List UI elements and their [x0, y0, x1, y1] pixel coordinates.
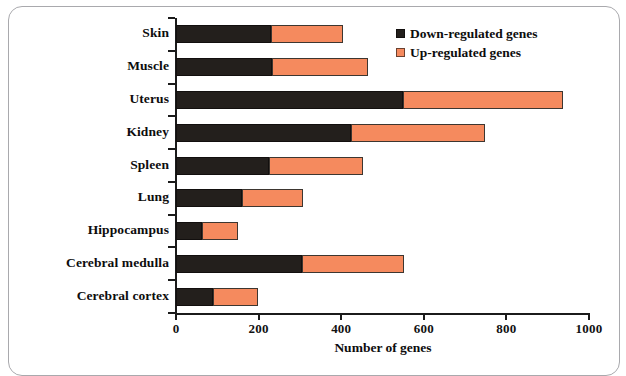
bar-segment-up-regulated — [269, 157, 363, 175]
x-axis-line — [175, 313, 589, 315]
x-axis-tick-label: 0 — [146, 321, 206, 337]
bar-segment-up-regulated — [403, 91, 563, 109]
bar-segment-down-regulated — [176, 222, 202, 240]
bar-segment-down-regulated — [176, 124, 351, 142]
bar-kidney — [176, 124, 589, 142]
y-axis-tick — [168, 83, 175, 85]
y-axis-label-cerebral-medulla: Cerebral medulla — [0, 255, 169, 271]
y-axis-label-uterus: Uterus — [0, 91, 169, 107]
x-axis-tick — [505, 313, 507, 320]
legend-item-up-regulated: Up-regulated genes — [396, 43, 538, 62]
y-axis-tick — [168, 50, 175, 52]
bar-cerebral-medulla — [176, 255, 589, 273]
y-axis-tick — [168, 312, 175, 314]
bar-segment-up-regulated — [242, 189, 303, 207]
legend-label-down-regulated: Down-regulated genes — [410, 26, 538, 42]
y-axis-label-kidney: Kidney — [0, 124, 169, 140]
bar-segment-up-regulated — [213, 288, 258, 306]
bar-segment-down-regulated — [176, 25, 271, 43]
y-axis-label-hippocampus: Hippocampus — [0, 222, 169, 238]
x-axis-tick-label: 800 — [476, 321, 536, 337]
y-axis-tick — [168, 279, 175, 281]
bar-segment-up-regulated — [272, 58, 368, 76]
black-square-icon — [396, 29, 405, 38]
bar-segment-down-regulated — [176, 157, 269, 175]
x-axis-tick-label: 200 — [229, 321, 289, 337]
x-axis-tick-label: 1000 — [559, 321, 619, 337]
y-axis-label-cerebral-cortex: Cerebral cortex — [0, 288, 169, 304]
bar-segment-down-regulated — [176, 255, 302, 273]
orange-square-icon — [396, 48, 405, 57]
bar-segment-down-regulated — [176, 58, 272, 76]
bar-segment-up-regulated — [302, 255, 404, 273]
x-axis-tick-label: 400 — [311, 321, 371, 337]
bar-segment-down-regulated — [176, 189, 242, 207]
bar-spleen — [176, 157, 589, 175]
y-axis-tick — [168, 115, 175, 117]
x-axis-title: Number of genes — [176, 340, 590, 356]
y-axis-tick — [168, 246, 175, 248]
y-axis-tick — [168, 181, 175, 183]
bar-segment-down-regulated — [176, 91, 403, 109]
x-axis-tick-label: 600 — [394, 321, 454, 337]
y-axis-tick — [168, 148, 175, 150]
bar-cerebral-cortex — [176, 288, 589, 306]
x-axis-tick — [588, 313, 590, 320]
bar-hippocampus — [176, 222, 589, 240]
bar-segment-up-regulated — [351, 124, 485, 142]
y-axis-tick — [168, 17, 175, 19]
x-axis-tick — [340, 313, 342, 320]
x-axis-tick — [423, 313, 425, 320]
bar-segment-up-regulated — [202, 222, 239, 240]
x-axis-tick — [175, 313, 177, 320]
chart-legend: Down-regulated genes Up-regulated genes — [396, 24, 538, 62]
bar-lung — [176, 189, 589, 207]
bar-uterus — [176, 91, 589, 109]
bar-segment-down-regulated — [176, 288, 213, 306]
legend-label-up-regulated: Up-regulated genes — [410, 45, 521, 61]
y-axis-label-lung: Lung — [0, 189, 169, 205]
legend-item-down-regulated: Down-regulated genes — [396, 24, 538, 43]
y-axis-label-skin: Skin — [0, 25, 169, 41]
y-axis-label-muscle: Muscle — [0, 58, 169, 74]
y-axis-label-spleen: Spleen — [0, 157, 169, 173]
bar-segment-up-regulated — [271, 25, 343, 43]
y-axis-tick — [168, 214, 175, 216]
x-axis-tick — [258, 313, 260, 320]
